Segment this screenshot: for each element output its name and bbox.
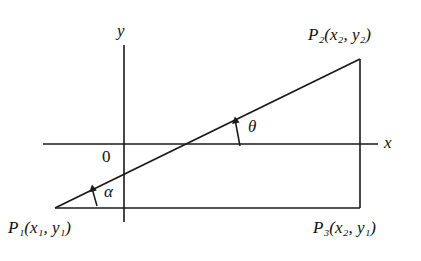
geometry-figure: y x 0 θ α P₁(x₁, y₁) P₂(x₂, y₂) P₃(x₂, y… <box>0 0 421 261</box>
point-label-p2: P₂(x₂, y₂) <box>308 26 371 43</box>
point-label-p3: P₃(x₂, y₁) <box>313 219 376 236</box>
point-label-p1: P₁(x₁, y₁) <box>8 219 71 236</box>
x-axis-label: x <box>384 134 392 151</box>
origin-label: 0 <box>102 148 111 165</box>
y-axis-label: y <box>117 22 125 39</box>
theta-angle-label: θ <box>248 118 256 135</box>
alpha-angle-label: α <box>104 183 113 200</box>
line-p1-p2 <box>55 59 360 208</box>
